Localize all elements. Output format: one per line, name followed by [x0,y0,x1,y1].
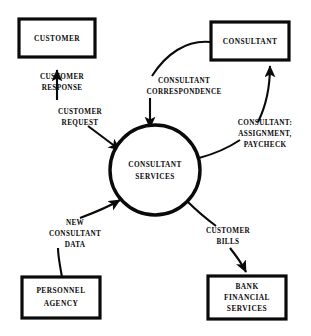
entity-bank-label-line-2: FINANCIAL [224,293,270,302]
entity-bank-label-line-1: BANK [235,282,258,291]
process-consultant-services-circle[interactable] [110,125,200,215]
flow-label-new-consultant-data: NEW CONSULTANT DATA [49,219,101,249]
entity-personnel-agency-label-line-2: AGENCY [44,299,79,308]
process-label-line-1: CONSULTANT [128,160,181,169]
flow-label-consultant-correspondence: CONSULTANT CORRESPONDENCE [146,77,221,96]
entity-consultant-label: CONSULTANT [223,37,278,46]
flow-arrow-customer-bills-lower [230,248,246,272]
flow-label-new-consultant-data-line-1: NEW [66,219,85,227]
process-label-line-2: SERVICES [135,172,174,181]
flow-curve-customer-bills-upper [188,202,216,226]
flow-label-customer-request-line-2: REQUEST [62,119,99,127]
flow-label-customer-response-line-2: RESPONSE [42,84,83,92]
flow-label-consultant-assignment-paycheck: CONSULTANT: ASSIGNMENT, PAYCHECK [238,119,292,149]
entity-customer[interactable]: CUSTOMER [19,19,95,57]
flow-label-customer-bills: CUSTOMER BILLS [206,227,251,246]
flow-new-consultant-data [58,200,120,277]
flow-arrow-assignment-upper [258,66,270,122]
flow-curve-assignment-lower [199,140,240,158]
flow-label-consultant-correspondence-line-2: CORRESPONDENCE [146,88,221,96]
flow-curve-consultant-correspondence [152,42,210,76]
entity-consultant[interactable]: CONSULTANT [211,22,289,60]
flow-label-customer-request-line-1: CUSTOMER [58,108,103,116]
flow-curve-new-consultant-lower [58,248,62,277]
entity-bank-financial-services[interactable]: BANK FINANCIAL SERVICES [208,276,286,319]
diagram-canvas: CUSTOMER CONSULTANT PERSONNEL AGENCY BAN… [0,0,311,336]
entity-personnel-agency-label-line-1: PERSONNEL [36,286,85,295]
entity-personnel-agency[interactable]: PERSONNEL AGENCY [22,277,100,318]
flow-label-new-consultant-data-line-2: CONSULTANT [49,230,101,238]
flow-label-customer-response-line-1: CUSTOMER [40,73,85,81]
flow-label-assignment-line-1: CONSULTANT: [238,119,292,127]
flow-label-assignment-line-3: PAYCHECK [244,141,287,149]
flow-consultant-correspondence [150,42,210,128]
flow-label-assignment-line-2: ASSIGNMENT, [238,130,291,138]
flow-label-customer-bills-line-1: CUSTOMER [206,227,251,235]
flow-label-customer-bills-line-2: BILLS [217,238,240,246]
entity-personnel-agency-box[interactable] [22,277,100,318]
flow-label-consultant-correspondence-line-1: CONSULTANT [158,77,210,85]
flow-label-customer-request: CUSTOMER REQUEST [58,108,103,127]
flow-label-new-consultant-data-line-3: DATA [65,241,86,249]
flow-arrow-new-consultant-upper [80,200,120,218]
data-flow-diagram: CUSTOMER CONSULTANT PERSONNEL AGENCY BAN… [0,0,311,336]
flow-label-customer-response: CUSTOMER RESPONSE [40,73,85,92]
entity-customer-label: CUSTOMER [34,34,80,43]
process-consultant-services[interactable]: CONSULTANT SERVICES [110,125,200,215]
entity-bank-label-line-3: SERVICES [227,304,267,313]
